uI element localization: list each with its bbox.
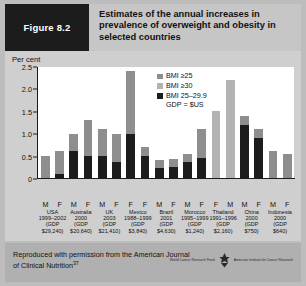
bar-slot — [252, 67, 266, 178]
y-axis-tick-label: 1.5 — [22, 107, 32, 116]
chart-bar[interactable] — [41, 156, 50, 178]
chart-bar[interactable] — [226, 80, 235, 178]
bar-segment-upper — [169, 159, 178, 167]
legend-item: BMI 25–29.9 — [157, 92, 207, 101]
x-axis-sex-label: M — [67, 200, 81, 209]
bar-segment-upper — [98, 129, 107, 156]
x-axis-line — [37, 178, 295, 179]
x-axis-country-group: Thailand1991–1996(GDP $2,160) — [209, 209, 237, 234]
plot-area-wrapper: 00.51.01.52.02.5 — [11, 67, 295, 199]
chart-bar[interactable] — [141, 147, 150, 178]
bar-segment-upper — [212, 111, 221, 178]
x-axis-sex-label: M — [223, 200, 237, 209]
logo-wcrf-label: World Cancer Research Fund — [170, 258, 215, 262]
x-axis-sex-label: F — [53, 200, 67, 209]
bar-slot — [53, 67, 67, 178]
bar-segment-bmi25-29 — [169, 167, 178, 178]
bar-segment-bmi25-29 — [126, 134, 135, 178]
x-axis-sex-label: M — [95, 200, 109, 209]
country-gdp: (GDP $20,640) — [67, 221, 95, 233]
country-gdp: (GDP $1,240) — [180, 221, 208, 233]
y-axis-tick-label: 1.0 — [22, 130, 32, 139]
chart-bar[interactable] — [98, 129, 107, 178]
x-axis-country-group: Mexico1988–1999(GDP $3,840) — [124, 209, 152, 234]
x-axis-sex-label: M — [266, 200, 280, 209]
x-axis-country-group: Indonesia2000(GDP $640) — [266, 209, 294, 234]
chart-bar[interactable] — [55, 151, 64, 178]
chart-bar[interactable] — [283, 154, 292, 178]
bar-segment-bmi25-29 — [240, 125, 249, 178]
bar-segment-upper — [112, 134, 121, 162]
chart-bar[interactable] — [254, 129, 263, 178]
bar-segment-upper — [254, 129, 263, 138]
chart-legend: BMI ≥25BMI ≥30BMI 25–29.9GDP = $US — [157, 72, 207, 110]
bar-segment-upper — [240, 116, 249, 125]
country-gdp: (GDP $640) — [266, 221, 294, 233]
chart-bar[interactable] — [212, 111, 221, 178]
footer-credit: Reproduced with permission from the Amer… — [13, 250, 193, 270]
bar-slot — [109, 67, 123, 178]
chart-bar[interactable] — [183, 154, 192, 178]
y-axis-tick-label: 2.0 — [22, 85, 32, 94]
logo-aicr-label: American Institute for Cancer Research — [234, 258, 293, 262]
bar-segment-bmi25-29 — [197, 158, 206, 178]
x-axis-sex-label: M — [180, 200, 194, 209]
bar-segment-upper — [197, 129, 206, 158]
x-axis-sex-label: F — [195, 200, 209, 209]
country-gdp: (GDP $21,410) — [95, 221, 123, 233]
figure-header: Figure 8.2 Estimates of the annual incre… — [5, 4, 301, 51]
bar-slot — [237, 67, 251, 178]
chart-bar[interactable] — [169, 159, 178, 178]
x-axis-sex-label: F — [209, 200, 223, 209]
legend-label: BMI ≥30 — [166, 82, 193, 91]
figure-number-label: Figure 8.2 — [24, 22, 71, 33]
footer-credit-text: Reproduced with permission from the Amer… — [13, 250, 190, 270]
figure-footer: Reproduced with permission from the Amer… — [5, 243, 301, 282]
chart-bar[interactable] — [240, 116, 249, 178]
chart-bar[interactable] — [197, 129, 206, 178]
bar-segment-upper — [155, 160, 164, 168]
bar-slot — [95, 67, 109, 178]
legend-swatch-icon — [157, 74, 163, 80]
bar-slot — [38, 67, 52, 178]
bar-segment-upper — [269, 151, 278, 178]
bar-segment-upper — [69, 134, 78, 152]
bar-slot — [67, 67, 81, 178]
x-axis-sex-label: M — [38, 200, 52, 209]
x-axis-sex-label: F — [280, 200, 294, 209]
bar-segment-upper — [183, 154, 192, 163]
bar-segment-upper — [141, 147, 150, 156]
bar-slot — [209, 67, 223, 178]
bar-slot — [124, 67, 138, 178]
chart-bar[interactable] — [269, 151, 278, 178]
legend-label: BMI ≥25 — [166, 72, 193, 81]
bar-segment-upper — [226, 80, 235, 178]
country-gdp: (GDP $29,240) — [38, 221, 66, 233]
x-axis-sex-label: F — [124, 200, 138, 209]
figure-page: Figure 8.2 Estimates of the annual incre… — [0, 0, 306, 286]
bar-segment-bmi25-29 — [112, 162, 121, 178]
logo-mark-icon — [218, 252, 231, 268]
bar-segment-upper — [283, 154, 292, 178]
x-axis-country-group: UK2003(GDP $21,410) — [95, 209, 123, 234]
bar-slot — [266, 67, 280, 178]
x-axis-sex-label: M — [152, 200, 166, 209]
organisation-logos: World Cancer Research Fund American Inst… — [170, 252, 293, 268]
chart-bar[interactable] — [155, 160, 164, 178]
legend-swatch-icon — [157, 83, 163, 89]
x-axis-country-group: Australia2000(GDP $20,640) — [67, 209, 95, 234]
y-axis-tick-label: 0 — [28, 175, 32, 184]
x-axis-sex-label: F — [81, 200, 95, 209]
chart-bar[interactable] — [84, 120, 93, 178]
x-axis-sex-label: F — [109, 200, 123, 209]
chart-bar[interactable] — [126, 71, 135, 178]
bar-slot — [81, 67, 95, 178]
bar-segment-bmi25-29 — [98, 156, 107, 178]
x-axis-sex-label: F — [166, 200, 180, 209]
chart-bar[interactable] — [69, 134, 78, 178]
figure-title: Estimates of the annual increases in pre… — [89, 4, 301, 51]
figure-number-tab: Figure 8.2 — [5, 4, 89, 51]
legend-item: BMI ≥25 — [157, 72, 207, 81]
chart-bar[interactable] — [112, 134, 121, 178]
bar-segment-bmi25-29 — [254, 138, 263, 178]
